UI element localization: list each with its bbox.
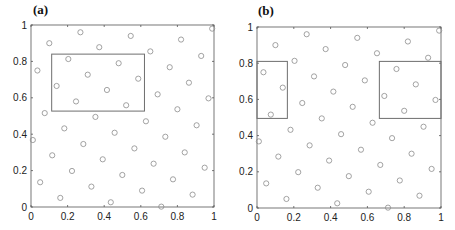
data-point [50, 153, 55, 158]
data-point [104, 87, 109, 92]
data-point [343, 62, 348, 67]
data-point [120, 172, 125, 177]
x-tick-label: 1 [211, 211, 217, 222]
data-point [433, 97, 438, 102]
data-point [338, 132, 343, 137]
data-point [394, 66, 399, 71]
x-tick-label: 0.2 [287, 212, 301, 223]
y-tick-label: 1 [247, 22, 253, 33]
region-rectangle [379, 61, 441, 118]
data-point [167, 65, 172, 70]
panel-label-a: (a) [33, 2, 48, 18]
x-tick-label: 0.6 [134, 211, 148, 222]
data-point [54, 83, 59, 88]
data-point [148, 49, 153, 54]
panel-a: 00.20.40.60.8100.20.40.60.81 (a) [0, 0, 228, 230]
data-point [417, 193, 422, 198]
data-point [280, 85, 285, 90]
data-point [97, 45, 102, 50]
x-tick-label: 0.4 [97, 211, 111, 222]
data-point [186, 80, 191, 85]
data-point [78, 30, 83, 35]
y-tick-label: 0.6 [13, 92, 27, 103]
data-point [405, 39, 410, 44]
x-tick-label: 0.6 [360, 212, 374, 223]
panel-b: 00.20.40.60.8100.20.40.60.81 (b) [226, 0, 454, 230]
data-point [304, 32, 309, 37]
data-point [362, 78, 367, 83]
data-point [300, 100, 305, 105]
data-point [276, 154, 281, 159]
data-point [319, 116, 324, 121]
data-point [284, 196, 289, 201]
y-tick-label: 0 [247, 203, 253, 214]
data-point [296, 170, 301, 175]
data-point [178, 37, 183, 42]
data-point [128, 33, 133, 38]
y-tick-label: 0.2 [239, 166, 253, 177]
x-tick-label: 0.8 [397, 212, 411, 223]
data-point [264, 181, 269, 186]
data-point [42, 110, 47, 115]
axes-frame [257, 27, 441, 208]
data-point [355, 35, 360, 40]
data-point [182, 150, 187, 155]
data-point [175, 107, 180, 112]
region-rectangle [52, 54, 145, 111]
data-point [374, 51, 379, 56]
data-point [350, 104, 355, 109]
data-point [315, 185, 320, 190]
data-point [346, 174, 351, 179]
data-point [62, 126, 67, 131]
y-tick-label: 0.4 [13, 129, 27, 140]
data-point [108, 200, 113, 205]
axes-frame [31, 25, 214, 207]
data-point [331, 89, 336, 94]
data-point [323, 46, 328, 51]
x-tick-label: 0 [28, 211, 34, 222]
data-point [100, 157, 105, 162]
data-point [190, 192, 195, 197]
data-point [426, 55, 431, 60]
x-tick-label: 0.8 [170, 211, 184, 222]
data-point [143, 119, 148, 124]
data-point [370, 120, 375, 125]
y-tick-label: 0 [21, 202, 27, 213]
panel-label-b: (b) [258, 3, 274, 19]
data-point [206, 96, 211, 101]
data-point [413, 82, 418, 87]
data-point [327, 158, 332, 163]
data-point [389, 136, 394, 141]
scatter-plot-a: 00.20.40.60.8100.20.40.60.81 [0, 0, 228, 230]
data-point [93, 114, 98, 119]
data-point [124, 103, 129, 108]
data-point [163, 134, 168, 139]
data-point [366, 189, 371, 194]
data-point [261, 70, 266, 75]
data-point [307, 143, 312, 148]
data-point [47, 41, 52, 46]
data-point [38, 180, 43, 185]
data-point [155, 92, 160, 97]
data-point [273, 43, 278, 48]
data-point [132, 146, 137, 151]
data-point [335, 201, 340, 206]
data-point [73, 99, 78, 104]
x-tick-label: 0.2 [61, 211, 75, 222]
x-tick-label: 0.4 [324, 212, 338, 223]
data-point [58, 195, 63, 200]
data-point [35, 68, 40, 73]
data-point [311, 74, 316, 79]
data-point [421, 124, 426, 129]
data-point [429, 166, 434, 171]
x-tick-label: 0 [254, 212, 260, 223]
data-point [89, 184, 94, 189]
data-point [139, 188, 144, 193]
data-point [170, 177, 175, 182]
y-tick-label: 0.4 [239, 130, 253, 141]
data-point [402, 108, 407, 113]
data-point [112, 130, 117, 135]
data-point [382, 93, 387, 98]
y-tick-label: 0.8 [239, 58, 253, 69]
data-point [136, 76, 141, 81]
